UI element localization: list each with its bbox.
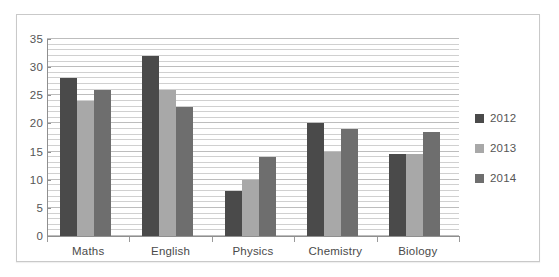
bar-maths-2014 (94, 90, 111, 236)
x-axis-label-english: English (151, 245, 190, 257)
x-axis-tick-mark (129, 237, 130, 242)
bar-biology-2012 (389, 154, 406, 236)
gridline (47, 66, 459, 67)
legend-label: 2014 (490, 172, 516, 184)
y-axis-tick-label: 5 (36, 202, 43, 214)
y-axis-tick-label: 10 (30, 174, 43, 186)
bar-chemistry-2014 (341, 129, 358, 236)
bar-english-2013 (159, 90, 176, 236)
bar-physics-2014 (259, 157, 276, 236)
y-axis-tick-mark (47, 67, 51, 68)
gridline (47, 72, 459, 73)
x-axis-category-labels: MathsEnglishPhysicsChemistryBiology (47, 245, 460, 263)
y-axis-tick-label: 15 (30, 146, 43, 158)
y-axis-tick-mark (47, 208, 51, 209)
bar-chemistry-2013 (324, 152, 341, 236)
legend-label: 2013 (490, 142, 516, 154)
gridline (47, 55, 459, 56)
x-axis-label-chemistry: Chemistry (309, 245, 363, 257)
legend-swatch-icon (475, 114, 484, 123)
x-axis-tick-mark (47, 237, 48, 242)
y-axis-tick-labels: 05101520253035 (17, 39, 43, 236)
chart-legend: 201220132014 (475, 103, 535, 193)
bar-physics-2012 (225, 191, 242, 236)
legend-item-2014[interactable]: 2014 (475, 163, 535, 193)
bar-maths-2012 (60, 78, 77, 236)
gridline (47, 44, 459, 45)
y-axis-tick-label: 20 (30, 117, 43, 129)
y-axis-tick-label: 35 (30, 33, 43, 45)
gridline (47, 83, 459, 84)
x-axis-label-biology: Biology (398, 245, 437, 257)
bar-physics-2013 (242, 180, 259, 236)
y-axis-tick-mark (47, 123, 51, 124)
legend-item-2012[interactable]: 2012 (475, 103, 535, 133)
y-axis-tick-label: 0 (36, 230, 43, 242)
bar-english-2014 (176, 107, 193, 236)
x-axis-tick-mark (377, 237, 378, 242)
gridline (47, 61, 459, 62)
legend-swatch-icon (475, 144, 484, 153)
gridline (47, 49, 459, 50)
chart-frame: 05101520253035 MathsEnglishPhysicsChemis… (16, 14, 540, 262)
y-axis-tick-mark (47, 180, 51, 181)
bar-biology-2013 (406, 154, 423, 236)
y-axis-tick-label: 30 (30, 61, 43, 73)
legend-item-2013[interactable]: 2013 (475, 133, 535, 163)
bar-biology-2014 (423, 132, 440, 236)
gridline (47, 77, 459, 78)
y-axis-tick-label: 25 (30, 89, 43, 101)
x-axis-label-maths: Maths (72, 245, 104, 257)
y-axis-tick-mark (47, 95, 51, 96)
y-axis-tick-mark (47, 39, 51, 40)
plot-area (47, 39, 459, 236)
x-axis-line (47, 236, 460, 237)
x-axis-tick-mark (294, 237, 295, 242)
y-axis-tick-mark (47, 152, 51, 153)
x-axis-tick-mark (459, 237, 460, 242)
bar-chemistry-2012 (307, 123, 324, 236)
legend-label: 2012 (490, 112, 516, 124)
gridline (47, 38, 459, 39)
bar-maths-2013 (77, 101, 94, 236)
legend-swatch-icon (475, 174, 484, 183)
x-axis-tick-mark (212, 237, 213, 242)
bar-english-2012 (142, 56, 159, 236)
x-axis-label-physics: Physics (232, 245, 273, 257)
